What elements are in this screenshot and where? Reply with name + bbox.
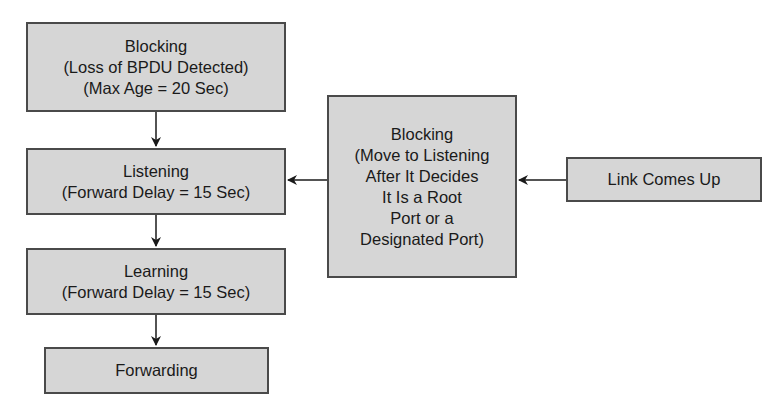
node-listening: Listening (Forward Delay = 15 Sec) <box>26 148 286 215</box>
node-label: Link Comes Up <box>608 169 721 190</box>
node-label: Learning <box>124 261 188 282</box>
node-label: Forwarding <box>115 360 198 381</box>
node-label: Port or a <box>390 208 453 229</box>
node-label: Listening <box>123 161 189 182</box>
node-label: Blocking <box>391 124 453 145</box>
node-label: Blocking <box>125 36 187 57</box>
node-label: (Forward Delay = 15 Sec) <box>62 182 250 203</box>
node-blocking-loss-of-bpdu: Blocking (Loss of BPDU Detected) (Max Ag… <box>26 22 286 112</box>
node-link-comes-up: Link Comes Up <box>566 157 762 202</box>
node-label: After It Decides <box>366 166 479 187</box>
node-forwarding: Forwarding <box>44 347 269 394</box>
node-label: It Is a Root <box>382 187 462 208</box>
node-label: (Forward Delay = 15 Sec) <box>62 282 250 303</box>
node-learning: Learning (Forward Delay = 15 Sec) <box>26 248 286 315</box>
node-label: Designated Port) <box>360 229 484 250</box>
node-blocking-move-to-listening: Blocking (Move to Listening After It Dec… <box>327 95 517 278</box>
node-label: (Max Age = 20 Sec) <box>83 78 228 99</box>
node-label: (Move to Listening <box>355 145 490 166</box>
node-label: (Loss of BPDU Detected) <box>63 57 248 78</box>
